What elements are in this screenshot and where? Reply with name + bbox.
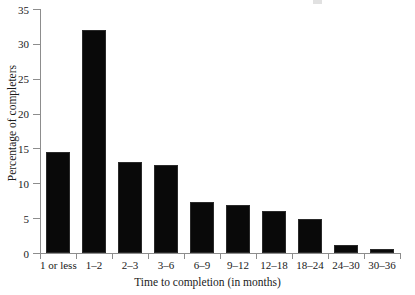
x-axis-tick [220, 253, 221, 259]
bar [298, 219, 322, 253]
y-axis-title-text: Percentage of completers [5, 65, 19, 181]
x-axis-tick [148, 253, 149, 259]
bar-chart-figure: 05101520253035 1 or less1–22–33–66–99–12… [0, 0, 415, 295]
x-axis-tick [364, 253, 365, 259]
plot-area [40, 9, 400, 253]
bar [46, 152, 70, 253]
y-axis-tick: 35 [33, 9, 40, 10]
y-axis-tick: 25 [33, 79, 40, 80]
bar [334, 245, 358, 253]
y-axis-tick: 5 [33, 218, 40, 219]
bar [154, 165, 178, 253]
x-axis-category-label: 1–2 [76, 260, 112, 271]
x-axis-tick [328, 253, 329, 259]
x-axis-tick [112, 253, 113, 259]
y-axis-tick-label: 10 [18, 178, 29, 189]
x-axis-tick [292, 253, 293, 259]
bar [262, 211, 286, 253]
y-axis-tick-label: 0 [24, 248, 30, 259]
x-axis-category-label: 12–18 [256, 260, 292, 271]
x-axis-category-label: 3–6 [148, 260, 184, 271]
y-axis-tick-label: 5 [24, 213, 30, 224]
scan-artifact [313, 0, 322, 4]
y-axis-tick: 0 [33, 253, 40, 254]
x-axis-category-label: 18–24 [292, 260, 328, 271]
y-axis-tick: 10 [33, 183, 40, 184]
bar [370, 249, 394, 253]
x-axis-category-label: 1 or less [40, 260, 76, 271]
bar [82, 30, 106, 253]
bar [190, 202, 214, 253]
x-axis-category-label: 2–3 [112, 260, 148, 271]
x-axis-title: Time to completion (in months) [0, 277, 415, 289]
y-axis-tick-label: 35 [18, 4, 29, 15]
bar [226, 205, 250, 253]
x-axis-tick [256, 253, 257, 259]
y-axis-tick: 15 [33, 148, 40, 149]
x-axis-category-label: 6–9 [184, 260, 220, 271]
bar [118, 162, 142, 253]
y-axis-tick: 20 [33, 114, 40, 115]
y-axis-tick-label: 25 [18, 74, 29, 85]
x-axis-tick [400, 253, 401, 259]
x-axis-tick [184, 253, 185, 259]
y-axis-tick-label: 20 [18, 109, 29, 120]
y-axis-tick-label: 15 [18, 143, 29, 154]
x-axis-category-label: 9–12 [220, 260, 256, 271]
x-axis-category-label: 30–36 [364, 260, 400, 271]
y-axis-tick: 30 [33, 44, 40, 45]
x-axis-category-label: 24–30 [328, 260, 364, 271]
y-axis-tick-label: 30 [18, 39, 29, 50]
